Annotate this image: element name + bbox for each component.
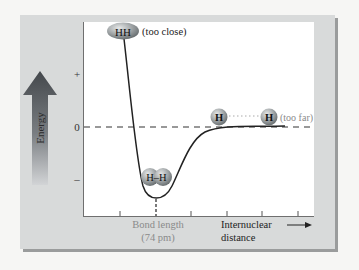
arrow-right-icon xyxy=(287,222,312,228)
h-atom-right: H xyxy=(261,109,278,126)
y-axis-label: Energy xyxy=(34,112,46,144)
bond-length-label: Bond length xyxy=(132,219,184,230)
h-atom-left: H xyxy=(211,109,228,126)
x-axis-ticks xyxy=(120,211,298,216)
y-tick-plus: + xyxy=(74,68,80,80)
x-axis-label-line2: distance xyxy=(221,232,256,243)
svg-text:H: H xyxy=(215,112,223,123)
h2-bonded-molecule: H–H xyxy=(141,168,172,186)
svg-text:H–H: H–H xyxy=(146,172,167,183)
y-tick-minus: – xyxy=(73,173,80,185)
y-tick-zero: 0 xyxy=(74,121,80,133)
hh-too-close-molecule: HH xyxy=(107,23,139,40)
energy-diagram: Energy + 0 – HH (too close) H–H H H (too… xyxy=(0,0,359,270)
svg-text:HH: HH xyxy=(115,26,131,38)
too-far-label: (too far) xyxy=(280,112,313,124)
too-close-label: (too close) xyxy=(142,26,187,38)
x-axis-label-line1: Internuclear xyxy=(221,219,272,230)
bond-length-value: (74 pm) xyxy=(141,232,175,244)
svg-text:H: H xyxy=(265,112,273,123)
